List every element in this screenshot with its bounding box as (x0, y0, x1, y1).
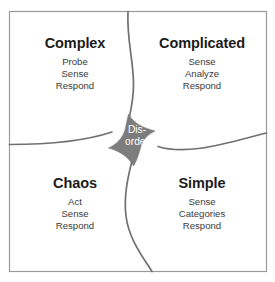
quadrant-complex: Complex Probe Sense Respond (16, 36, 134, 93)
cynefin-diagram: Complex Probe Sense Respond Complicated … (0, 0, 275, 282)
quadrant-complex-actions: Probe Sense Respond (16, 56, 134, 93)
disorder-label-line-1: Dis- (113, 124, 161, 136)
quadrant-complicated-actions: Sense Analyze Respond (142, 56, 262, 93)
disorder-label-line-2: order (113, 136, 161, 148)
quadrant-chaos: Chaos Act Sense Respond (16, 176, 134, 233)
action-item: Respond (142, 220, 262, 232)
action-item: Sense (16, 208, 134, 220)
quadrant-chaos-title: Chaos (16, 176, 134, 191)
quadrant-simple-actions: Sense Categories Respond (142, 196, 262, 233)
action-item: Respond (16, 220, 134, 232)
action-item: Sense (142, 196, 262, 208)
quadrant-chaos-actions: Act Sense Respond (16, 196, 134, 233)
action-item: Respond (16, 80, 134, 92)
action-item: Sense (142, 56, 262, 68)
action-item: Analyze (142, 68, 262, 80)
action-item: Respond (142, 80, 262, 92)
disorder-label: Dis- order (113, 124, 161, 147)
quadrant-simple: Simple Sense Categories Respond (142, 176, 262, 233)
action-item: Categories (142, 208, 262, 220)
quadrant-complex-title: Complex (16, 36, 134, 51)
action-item: Probe (16, 56, 134, 68)
action-item: Act (16, 196, 134, 208)
quadrant-complicated-title: Complicated (142, 36, 262, 51)
quadrant-simple-title: Simple (142, 176, 262, 191)
quadrant-complicated: Complicated Sense Analyze Respond (142, 36, 262, 93)
action-item: Sense (16, 68, 134, 80)
